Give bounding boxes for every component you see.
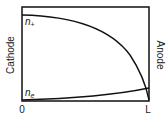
- cathode-label: Cathode: [5, 36, 16, 74]
- x-start-label: 0: [19, 104, 25, 115]
- x-end-label: L: [145, 104, 151, 115]
- n-plus-curve: [22, 15, 149, 100]
- n-plus-label: n+: [25, 16, 35, 28]
- n-e-label: ne: [25, 87, 35, 99]
- anode-label: Anode: [155, 41, 166, 70]
- density-diagram: n+ ne Cathode Anode 0 L: [0, 0, 166, 122]
- n-e-curve: [22, 88, 149, 100]
